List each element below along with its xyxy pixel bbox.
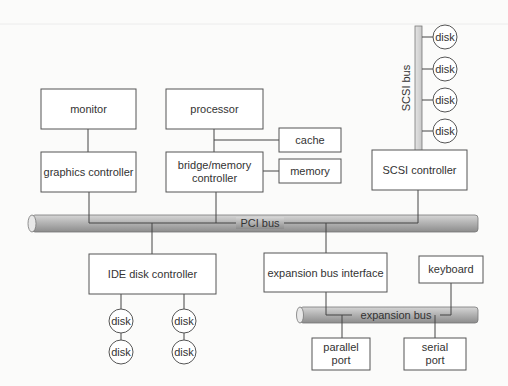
bridge-label-line2: controller — [192, 172, 238, 184]
scsi-disk: disk — [433, 57, 457, 81]
cache-label: cache — [295, 134, 324, 146]
serial-label-line1: serial — [422, 341, 448, 353]
ide-controller-label: IDE disk controller — [108, 268, 198, 280]
graphics-controller-label: graphics controller — [44, 166, 134, 178]
expansion-interface-label: expansion bus interface — [267, 267, 383, 279]
pc-bus-diagram: monitor processor cache graphics control… — [0, 0, 508, 386]
svg-text:disk: disk — [111, 346, 131, 358]
bridge-memory-controller-box: bridge/memory controller — [166, 152, 263, 192]
monitor-label: monitor — [70, 103, 107, 115]
pci-bus-label: PCI bus — [240, 217, 280, 229]
cache-box: cache — [279, 128, 341, 152]
scsi-disk: disk — [433, 119, 457, 143]
ide-disk: disk — [109, 309, 133, 333]
memory-label: memory — [290, 165, 330, 177]
ide-disk: disk — [109, 340, 133, 364]
scsi-controller-box: SCSI controller — [372, 150, 467, 190]
ide-disk: disk — [172, 309, 196, 333]
bridge-label-line1: bridge/memory — [178, 159, 252, 171]
ide-disk-controller-box: IDE disk controller — [89, 254, 216, 294]
scsi-disk: disk — [433, 88, 457, 112]
serial-port-box: serial port — [404, 338, 466, 370]
keyboard-box: keyboard — [419, 256, 483, 283]
svg-text:disk: disk — [435, 31, 455, 43]
monitor-box: monitor — [41, 89, 136, 129]
expansion-bus-label: expansion bus — [361, 309, 432, 321]
svg-text:disk: disk — [435, 125, 455, 137]
svg-text:disk: disk — [111, 315, 131, 327]
graphics-controller-box: graphics controller — [41, 152, 136, 192]
scsi-bus — [415, 26, 422, 151]
svg-text:disk: disk — [174, 346, 194, 358]
processor-box: processor — [166, 89, 263, 129]
serial-label-line2: port — [426, 354, 445, 366]
parallel-port-box: parallel port — [312, 338, 370, 370]
keyboard-label: keyboard — [428, 263, 473, 275]
svg-text:disk: disk — [174, 315, 194, 327]
parallel-label-line2: port — [332, 354, 351, 366]
memory-box: memory — [279, 159, 341, 183]
scsi-bus-label: SCSI bus — [400, 64, 412, 111]
svg-text:disk: disk — [435, 94, 455, 106]
expansion-bus-interface-box: expansion bus interface — [264, 253, 387, 292]
processor-label: processor — [190, 103, 239, 115]
ide-disk: disk — [172, 340, 196, 364]
scsi-controller-label: SCSI controller — [383, 164, 457, 176]
parallel-label-line1: parallel — [323, 341, 358, 353]
scsi-disk: disk — [433, 25, 457, 49]
svg-text:disk: disk — [435, 63, 455, 75]
